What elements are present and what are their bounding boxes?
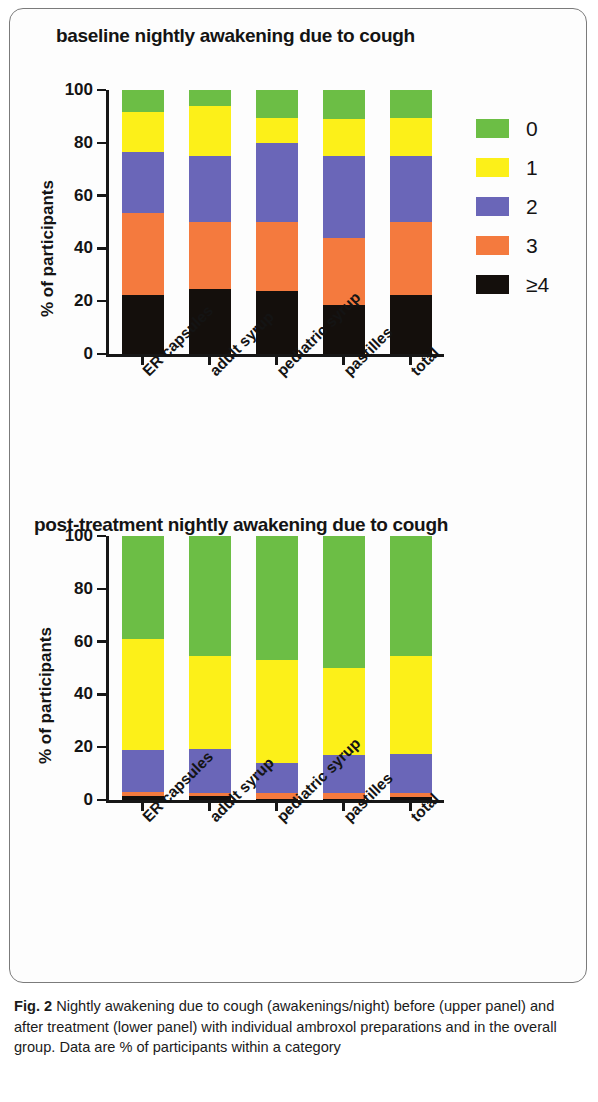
bar-segment <box>256 118 298 143</box>
chart-title-post-treatment: post-treatment nightly awakening due to … <box>34 514 448 536</box>
figure-caption: Fig. 2 Nightly awakening due to cough (a… <box>14 996 584 1058</box>
legend-label: ≥4 <box>526 274 549 295</box>
plot-area-post-treatment: 020406080100 <box>106 536 444 800</box>
stacked-bar <box>390 90 432 354</box>
y-axis-tick <box>97 693 106 696</box>
y-axis-tick-label: 0 <box>84 344 93 364</box>
y-axis-tick-label: 80 <box>74 133 93 153</box>
legend-baseline: 0123≥4 <box>476 113 549 308</box>
bar-segment <box>122 152 164 213</box>
y-axis-tick-label: 100 <box>65 80 93 100</box>
bar-segment <box>390 156 432 222</box>
stacked-bar <box>122 536 164 800</box>
bar-segment <box>122 213 164 295</box>
bar-segment <box>323 90 365 119</box>
y-axis-tick-label: 20 <box>74 291 93 311</box>
y-axis-tick-label: 40 <box>74 684 93 704</box>
bar-segment <box>323 536 365 668</box>
bar-segment <box>390 536 432 656</box>
y-axis-tick <box>97 640 106 643</box>
bar-segment <box>390 222 432 295</box>
bar-segment <box>122 90 164 112</box>
legend-label: 0 <box>526 118 538 139</box>
legend-swatch <box>476 236 509 255</box>
legend-swatch <box>476 197 509 216</box>
bar-segment <box>390 118 432 156</box>
bar-segment <box>122 750 164 792</box>
bar-segment <box>122 295 164 354</box>
y-axis-label-baseline: % of participants <box>38 180 58 317</box>
y-axis-tick <box>97 799 106 802</box>
y-axis-tick <box>97 353 106 356</box>
y-axis-tick-label: 60 <box>74 186 93 206</box>
bar-segment <box>256 222 298 291</box>
bar-segment <box>189 656 231 748</box>
y-axis-tick <box>97 142 106 145</box>
bar-group-baseline <box>109 90 444 354</box>
bar-segment <box>390 656 432 754</box>
y-axis-tick-label: 80 <box>74 579 93 599</box>
legend-swatch <box>476 158 509 177</box>
bar-segment <box>390 754 432 794</box>
stacked-bar <box>390 536 432 800</box>
bar-group-post-treatment <box>109 536 444 800</box>
bar-segment <box>122 639 164 750</box>
bar-segment <box>189 536 231 656</box>
y-axis-tick <box>97 89 106 92</box>
legend-label: 1 <box>526 157 538 178</box>
y-axis-label-post-treatment: % of participants <box>36 627 56 764</box>
bar-segment <box>323 156 365 238</box>
bar-segment <box>256 90 298 118</box>
y-axis-tick-label: 100 <box>65 526 93 546</box>
bar-segment <box>122 536 164 639</box>
bar-segment <box>390 295 432 354</box>
chart-title-baseline: baseline nightly awakening due to cough <box>56 25 415 47</box>
bar-segment <box>189 106 231 156</box>
y-axis-tick-label: 40 <box>74 238 93 258</box>
legend-item: 0 <box>476 113 549 144</box>
legend-label: 3 <box>526 235 538 256</box>
chart-panel-post-treatment: post-treatment nightly awakening due to … <box>10 496 588 983</box>
bar-segment <box>122 112 164 152</box>
bar-segment <box>189 90 231 106</box>
legend-item: ≥4 <box>476 269 549 300</box>
y-axis-tick <box>97 746 106 749</box>
bar-segment <box>390 90 432 118</box>
y-axis-tick-label: 0 <box>84 790 93 810</box>
figure-caption-label: Fig. 2 <box>14 998 52 1014</box>
y-axis-tick <box>97 535 106 538</box>
legend-item: 1 <box>476 152 549 183</box>
y-axis-tick <box>97 194 106 197</box>
bar-segment <box>256 536 298 660</box>
y-axis-tick-label: 20 <box>74 737 93 757</box>
y-axis-tick <box>97 300 106 303</box>
y-axis-tick <box>97 588 106 591</box>
figure-caption-text: Nightly awakening due to cough (awakenin… <box>14 998 557 1055</box>
legend-item: 2 <box>476 191 549 222</box>
y-axis-tick-label: 60 <box>74 632 93 652</box>
bar-segment <box>189 222 231 289</box>
stacked-bar <box>122 90 164 354</box>
y-axis-tick <box>97 247 106 250</box>
chart-panel-baseline: baseline nightly awakening due to cough … <box>10 9 588 496</box>
legend-item: 3 <box>476 230 549 261</box>
bar-segment <box>189 156 231 222</box>
bar-segment <box>256 660 298 763</box>
plot-area-baseline: 020406080100 <box>106 90 444 354</box>
figure-card: baseline nightly awakening due to cough … <box>9 8 587 983</box>
bar-segment <box>256 143 298 222</box>
bar-segment <box>323 119 365 156</box>
legend-label: 2 <box>526 196 538 217</box>
legend-swatch <box>476 275 509 294</box>
legend-swatch <box>476 119 509 138</box>
